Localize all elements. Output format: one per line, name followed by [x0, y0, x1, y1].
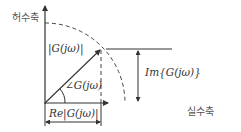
imaginary-part-label: Im{G(jω)}	[145, 67, 201, 78]
imaginary-axis-label: 허수축	[12, 13, 39, 23]
magnitude-label: |G(jω)|	[48, 43, 83, 54]
real-axis-label: 실수축	[187, 107, 214, 117]
angle-label: ∠G(jω)	[65, 80, 102, 91]
real-part-label: Re|G(jω)|	[49, 108, 99, 119]
vector-arrow	[45, 50, 100, 103]
angle-arc	[60, 89, 65, 103]
